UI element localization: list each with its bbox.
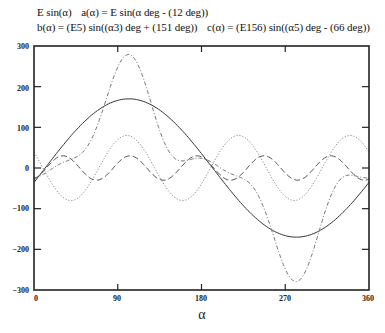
- series-solid-curve: [34, 99, 369, 237]
- y-tick-100: 100: [17, 124, 29, 133]
- y-tick-neg300: −300: [12, 286, 29, 295]
- axis-ticks: [34, 46, 369, 290]
- y-tick-neg200: −200: [12, 245, 29, 254]
- series-dash-dot-curve: [34, 54, 369, 281]
- x-tick-90: 90: [113, 294, 121, 303]
- x-tick-180: 180: [195, 294, 207, 303]
- y-tick-0: 0: [25, 164, 29, 173]
- y-tick-labels: 300 200 100 0 −100 −200 −300: [12, 42, 29, 295]
- x-axis-label: α: [198, 307, 206, 322]
- plot-frame: [34, 46, 369, 290]
- plot-curves: [34, 54, 369, 281]
- x-tick-labels: 0 90 180 270 360: [34, 294, 374, 303]
- x-tick-270: 270: [279, 294, 291, 303]
- series-dashed-curve: [34, 156, 369, 180]
- series-dotted-curve: [34, 136, 369, 201]
- y-tick-300: 300: [17, 42, 29, 51]
- y-tick-200: 200: [17, 84, 29, 93]
- chart: 0 90 180 270 360 300 200 100 0 −100 −200…: [0, 0, 385, 333]
- y-tick-neg100: −100: [12, 204, 29, 213]
- x-tick-0: 0: [34, 294, 38, 303]
- x-tick-360: 360: [362, 294, 374, 303]
